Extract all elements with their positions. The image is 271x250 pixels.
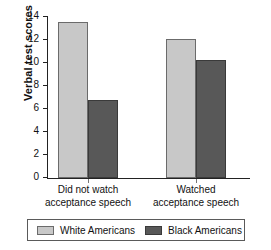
chart-legend: White Americans Black Americans [27,219,245,241]
y-axis-tick-mark [43,177,47,178]
x-axis-category-label-line: Did not watch [28,184,148,197]
y-axis-tick-label: 14 [18,10,39,22]
legend-label-white-americans: White Americans [60,225,135,236]
x-axis-category-label-line: Watched [136,184,256,197]
x-axis-tick-mark [88,179,89,183]
y-axis-tick-label: 4 [18,125,39,137]
x-axis-category-label-line: acceptance speech [28,197,148,210]
bar [196,60,226,178]
y-axis-tick-mark [43,39,47,40]
y-axis-tick-label: 0 [18,171,39,183]
legend-swatch-icon-white-americans [37,226,54,235]
y-axis-tick-label: 8 [18,79,39,91]
y-axis-tick-label: 10 [18,56,39,68]
x-axis-category-label-line: acceptance speech [136,197,256,210]
legend-entry-black-americans: Black Americans [145,224,242,237]
y-axis-tick-mark [43,108,47,109]
x-axis-tick-mark [196,179,197,183]
x-axis-category-label: Watchedacceptance speech [136,184,256,209]
y-axis-tick-mark [43,131,47,132]
legend-swatch-icon-black-americans [145,226,162,235]
y-axis-tick-label: 12 [18,33,39,45]
bar [58,22,88,178]
y-axis-line [47,16,48,179]
y-axis-tick-label: 6 [18,102,39,114]
y-axis-tick-mark [43,154,47,155]
bar [166,39,196,178]
bar [88,100,118,178]
x-axis-line [47,178,250,179]
bar-chart: Verbal test scores 02468101214 Did not w… [0,0,271,250]
x-axis-category-label: Did not watchacceptance speech [28,184,148,209]
y-axis-tick-label: 2 [18,148,39,160]
legend-entry-white-americans: White Americans [37,224,135,237]
y-axis-tick-mark [43,16,47,17]
y-axis-tick-mark [43,85,47,86]
y-axis-tick-mark [43,62,47,63]
legend-label-black-americans: Black Americans [168,225,242,236]
